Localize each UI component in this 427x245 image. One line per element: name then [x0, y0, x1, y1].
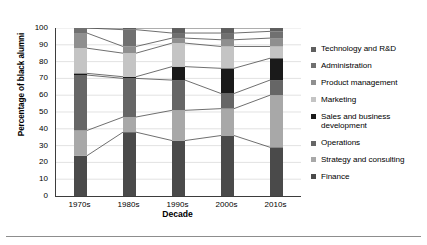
legend-item-label: Strategy and consulting: [321, 155, 404, 165]
legend-item[interactable]: Sales and business development: [311, 112, 423, 131]
legend-item[interactable]: Technology and R&D: [311, 44, 423, 54]
y-axis-tick-label: 50: [18, 108, 48, 116]
stack-segment: [270, 46, 283, 58]
stack-segment: [221, 40, 234, 47]
stack-segment: [74, 28, 87, 33]
legend-item[interactable]: Marketing: [311, 95, 423, 105]
chart-legend: Technology and R&DAdministrationProduct …: [311, 44, 423, 189]
stack-segment: [221, 33, 234, 40]
stack-segment: [123, 28, 136, 30]
legend-item-label: Administration: [321, 61, 372, 71]
stack-segment: [221, 46, 234, 68]
legend-item[interactable]: Strategy and consulting: [311, 155, 423, 165]
x-axis-title: Decade: [55, 209, 300, 219]
legend-item[interactable]: Product management: [311, 78, 423, 88]
stack-segment: [123, 78, 136, 117]
stack-segment: [172, 33, 185, 38]
stack-segment: [221, 68, 234, 93]
stack-segment: [123, 132, 136, 196]
stack-segment: [172, 67, 185, 80]
y-axis-tick-label: 80: [18, 58, 48, 66]
stack-segment: [172, 110, 185, 140]
legend-item-label: Marketing: [321, 95, 356, 105]
stack-segment: [74, 130, 87, 155]
x-axis-tick-label: 2010s: [250, 200, 302, 209]
stack-segment: [123, 77, 136, 79]
y-axis-tick-label: 0: [18, 192, 48, 200]
footer-divider: [6, 236, 421, 237]
stack-segment: [270, 147, 283, 196]
legend-swatch-icon: [311, 63, 316, 68]
legend-item-label: Operations: [321, 138, 360, 148]
y-axis-tick-label: 60: [18, 91, 48, 99]
stack-segment: [270, 38, 283, 46]
stacked-area-plot: [56, 28, 301, 196]
stack-segment: [74, 73, 87, 75]
legend-swatch-icon: [311, 174, 316, 179]
legend-swatch-icon: [311, 157, 316, 162]
stack-segment: [270, 58, 283, 80]
legend-swatch-icon: [311, 47, 316, 52]
stack-segment: [270, 80, 283, 95]
chart-container: Percentage of black alumni 0102030405060…: [0, 6, 427, 211]
legend-item-label: Sales and business development: [321, 112, 423, 131]
x-axis-tick-label: 1970s: [54, 200, 106, 209]
stack-segment: [123, 117, 136, 132]
x-axis-tick-label: 1980s: [103, 200, 155, 209]
x-axis-tick-label: 1990s: [152, 200, 204, 209]
y-axis-tick-label: 30: [18, 142, 48, 150]
legend-item[interactable]: Administration: [311, 61, 423, 71]
stack-segment: [221, 28, 234, 33]
stack-segment: [74, 33, 87, 48]
legend-item-label: Product management: [321, 78, 398, 88]
stack-segment: [221, 136, 234, 196]
y-axis-tick-label: 40: [18, 125, 48, 133]
stack-segment: [123, 53, 136, 77]
stack-segment: [172, 141, 185, 196]
y-axis-tick-label: 70: [18, 74, 48, 82]
stack-segment: [74, 75, 87, 130]
stack-segment: [270, 28, 283, 31]
legend-item-label: Technology and R&D: [321, 44, 396, 54]
y-axis-tick-label: 10: [18, 175, 48, 183]
legend-item-label: Finance: [321, 172, 349, 182]
legend-swatch-icon: [311, 141, 316, 146]
stack-segment: [74, 48, 87, 73]
legend-swatch-icon: [311, 97, 316, 102]
y-axis-tick-label: 20: [18, 158, 48, 166]
stack-segment: [172, 28, 185, 33]
stack-segment: [123, 30, 136, 47]
y-axis-tick-label: 90: [18, 41, 48, 49]
legend-swatch-icon: [311, 114, 316, 119]
stack-segment: [172, 80, 185, 110]
stack-segment: [172, 38, 185, 43]
stack-segment: [74, 156, 87, 196]
legend-swatch-icon: [311, 80, 316, 85]
stack-segment: [221, 109, 234, 136]
stack-segment: [172, 43, 185, 67]
plot-area: [55, 28, 301, 197]
chart-figure: Percentage of black alumni 0102030405060…: [0, 0, 427, 245]
x-axis-tick-label: 2000s: [201, 200, 253, 209]
legend-item[interactable]: Operations: [311, 138, 423, 148]
legend-item[interactable]: Finance: [311, 172, 423, 182]
stack-segment: [270, 95, 283, 147]
stack-segment: [123, 46, 136, 53]
stack-segment: [270, 31, 283, 38]
stack-segment: [221, 94, 234, 109]
y-axis-tick-label: 100: [18, 24, 48, 32]
